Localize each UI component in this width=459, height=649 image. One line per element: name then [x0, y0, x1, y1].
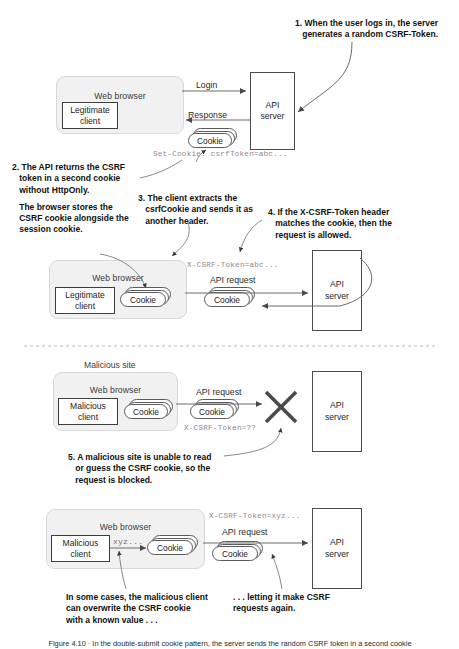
panel3-step5-callout: 5. A malicious site is unable to read or… — [68, 452, 220, 486]
panel3-malicious-client: Maliciousclient — [58, 398, 118, 425]
panel3-step5-text: 5. A malicious site is unable to read or… — [75, 452, 220, 486]
panel4-overwrite-value: xyz... — [113, 537, 143, 546]
figure-caption: Figure 4.10 · In the double-submit cooki… — [30, 639, 430, 649]
panel3-browser-cookie: Cookie — [124, 399, 174, 420]
panel3-csrf-header: X-CSRF-Token=?? — [184, 424, 256, 432]
panel2-request-cookie-label: Cookie — [204, 292, 250, 307]
panel1-api-server: APIserver — [250, 72, 295, 150]
panel1-step1-connector — [298, 42, 352, 112]
panel1-legitimate-client-label: Legitimateclient — [70, 105, 110, 127]
panel1-step1-text: 1. When the user logs in, the server gen… — [302, 18, 445, 41]
panel2-legitimate-client-label: Legitimateclient — [65, 290, 105, 312]
panel2-api-server: APIserver — [312, 250, 362, 331]
panel1-response-label: Response — [188, 110, 227, 120]
panel3-malicious-site-label: Malicious site — [84, 360, 136, 370]
panel2-legitimate-client: Legitimateclient — [55, 287, 115, 314]
blocked-x-icon — [266, 392, 296, 422]
panel1-set-cookie-header: Set-Cookie: csrfToken=abc... — [153, 150, 288, 158]
panel3-request-cookie-label: Cookie — [190, 404, 234, 419]
figure-caption-text: Figure 4.10 · In the double-submit cooki… — [48, 639, 411, 648]
panel1-legitimate-client: Legitimateclient — [62, 102, 118, 129]
panel3-request-cookie: Cookie — [190, 399, 240, 420]
panel1-login-label: Login — [196, 80, 217, 90]
panel1-step2-leader — [140, 160, 182, 178]
panel2-request-cookie: Cookie — [204, 287, 256, 308]
panel3-step5-leader — [224, 428, 281, 456]
figure-canvas: Web browser Legitimateclient Cookie APIs… — [0, 0, 459, 649]
panel4-malicious-client: Maliciousclient — [51, 535, 110, 562]
panel3-web-browser-label: Web browser — [54, 385, 177, 395]
panel2-step3-leader — [172, 222, 189, 256]
panel2-api-request-label: API request — [210, 275, 255, 285]
panel2-csrf-header: X-CSRF-Token=abc... — [187, 261, 278, 269]
panel4-browser-cookie-label: Cookie — [147, 540, 193, 555]
panel1-step2b-text: The browser stores the CSRF cookie along… — [19, 202, 134, 236]
panel3-browser-cookie-label: Cookie — [124, 404, 168, 419]
panel4-malicious-client-label: Maliciousclient — [63, 538, 99, 560]
panel3-api-server-label: APIserver — [325, 400, 349, 422]
panel2-step3-callout: 3. The client extracts the csrfCookie an… — [138, 193, 254, 227]
panel2-step4-callout: 4. If the X-CSRF-Token header matches th… — [268, 207, 402, 241]
panel1-response-cookie-label: Cookie — [188, 133, 232, 148]
panel1-web-browser-label: Web browser — [57, 91, 183, 101]
panel4-note-right: . . . letting it make CSRF requests agai… — [233, 592, 343, 615]
panel1-response-cookie: Cookie — [188, 128, 238, 149]
panel1-step1-callout: 1. When the user logs in, the server gen… — [295, 18, 445, 41]
panel4-request-cookie-label: Cookie — [212, 546, 258, 561]
panel1-api-server-label: APIserver — [261, 100, 285, 122]
panel4-note-left: In some cases, the malicious client can … — [66, 592, 208, 626]
panel4-api-server: APIserver — [312, 508, 362, 589]
panel4-api-request-label: API request — [222, 527, 267, 537]
panel4-browser-cookie: Cookie — [147, 535, 199, 556]
panel3-api-server: APIserver — [312, 371, 362, 452]
panel4-csrf-header: X-CSRF-Token=xyz... — [209, 512, 300, 520]
panel1-step2a-text: 2. The API returns the CSRF token in a s… — [19, 162, 134, 196]
panel2-api-server-label: APIserver — [325, 279, 349, 301]
panel4-note-right-text: . . . letting it make CSRF requests agai… — [233, 592, 343, 615]
panel2-web-browser-label: Web browser — [50, 273, 186, 283]
panel3-malicious-client-label: Maliciousclient — [70, 401, 106, 423]
panel3-api-request-label: API request — [196, 387, 241, 397]
panel2-step4-text: 4. If the X-CSRF-Token header matches th… — [275, 207, 402, 241]
panel4-web-browser-label: Web browser — [47, 522, 204, 532]
panel2-browser-cookie-label: Cookie — [120, 292, 166, 307]
panel4-note-right-leader — [272, 554, 282, 589]
panel4-api-server-label: APIserver — [325, 537, 349, 559]
panel2-step3-text: 3. The client extracts the csrfCookie an… — [145, 193, 254, 227]
panel4-note-left-text: In some cases, the malicious client can … — [66, 592, 208, 626]
panel4-request-cookie: Cookie — [212, 541, 264, 562]
panel2-browser-cookie: Cookie — [120, 287, 172, 308]
panel1-step2-callout: 2. The API returns the CSRF token in a s… — [12, 162, 134, 236]
